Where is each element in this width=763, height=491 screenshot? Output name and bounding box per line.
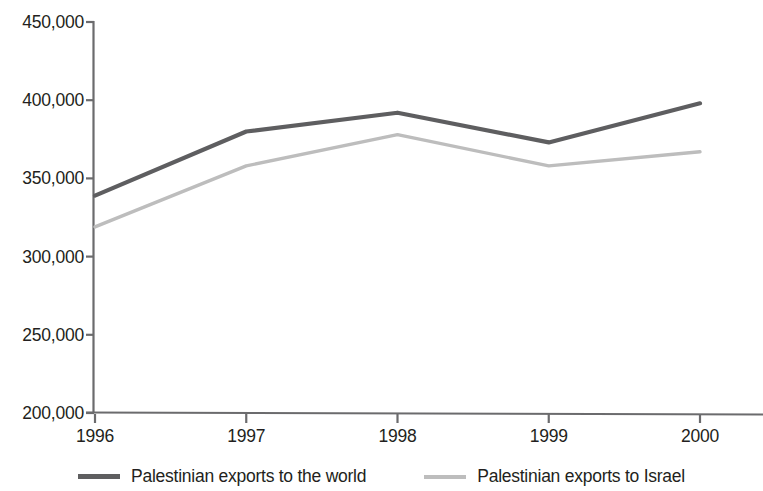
- chart-legend: Palestinian exports to the world Palesti…: [0, 462, 763, 491]
- x-axis-tick-label: 1999: [509, 426, 589, 447]
- x-axis-tick-label: 1997: [206, 426, 286, 447]
- legend-item-israel: Palestinian exports to Israel: [424, 466, 685, 487]
- x-axis-tick-label: 1996: [55, 426, 135, 447]
- x-axis-tick-label: 2000: [660, 426, 740, 447]
- legend-label-world: Palestinian exports to the world: [131, 466, 366, 487]
- legend-swatch-world-line-icon: [78, 474, 120, 479]
- line-chart: 450,000400,000350,000300,000250,000200,0…: [0, 0, 763, 491]
- x-axis-labels: 19961997199819992000: [0, 0, 763, 491]
- x-axis-tick-label: 1998: [358, 426, 438, 447]
- legend-item-world: Palestinian exports to the world: [78, 466, 366, 487]
- legend-label-israel: Palestinian exports to Israel: [477, 466, 685, 487]
- legend-swatch-israel-line-icon: [424, 475, 466, 479]
